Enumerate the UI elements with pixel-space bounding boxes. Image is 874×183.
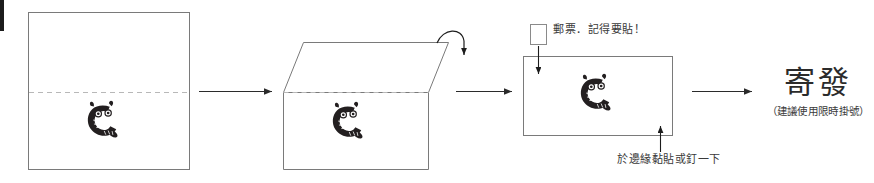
step-1-flat-sheet: [29, 13, 190, 170]
envelope-outline: [524, 57, 673, 136]
step-3-sealed-envelope: [524, 25, 673, 153]
stamp-placeholder-box: [531, 25, 547, 45]
send-title: 寄發: [766, 66, 870, 99]
stamp-reminder-label: 郵票．記得要貼！: [553, 24, 645, 35]
sheet-outline: [29, 13, 190, 170]
seal-edge-label: 於邊緣黏貼或釘一下: [617, 154, 721, 165]
flap-outline: [284, 43, 449, 93]
send-subtitle: （建議使用限時掛號）: [766, 103, 870, 118]
step-2-folding-flap: [284, 31, 465, 169]
diagram-vector-layer: [0, 0, 874, 183]
diagram-canvas: 郵票．記得要貼！ 於邊緣黏貼或釘一下 寄發 （建議使用限時掛號）: [0, 0, 874, 183]
step-4-send-block: 寄發 （建議使用限時掛號）: [766, 66, 870, 118]
